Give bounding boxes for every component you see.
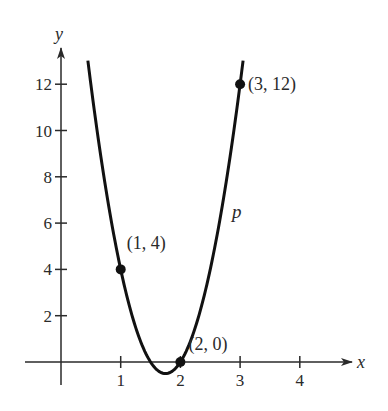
x-tick-label: 2 — [176, 371, 185, 390]
x-ticks: 1234 — [116, 356, 304, 390]
chart: 1234 24681012 x y (1, 4)(2, 0)(3, 12) p — [0, 0, 388, 411]
point-label: (3, 12) — [248, 74, 296, 95]
data-point — [116, 264, 126, 274]
curve-label-p: p — [230, 201, 242, 222]
point-label: (2, 0) — [188, 334, 227, 355]
data-points: (1, 4)(2, 0)(3, 12) — [116, 74, 296, 367]
y-tick-label: 2 — [44, 307, 53, 326]
x-tick-label: 1 — [116, 371, 125, 390]
y-tick-label: 10 — [35, 122, 52, 141]
y-axis-label: y — [53, 24, 63, 44]
y-tick-label: 4 — [44, 260, 53, 279]
data-point — [235, 79, 245, 89]
y-tick-label: 8 — [44, 168, 53, 187]
x-axis-label: x — [356, 352, 365, 372]
y-ticks: 24681012 — [35, 75, 67, 326]
point-label: (1, 4) — [127, 233, 166, 254]
x-tick-label: 4 — [296, 371, 305, 390]
x-tick-label: 3 — [236, 371, 245, 390]
data-point — [175, 357, 185, 367]
y-tick-label: 12 — [35, 75, 52, 94]
curve-p — [88, 61, 243, 374]
y-tick-label: 6 — [44, 214, 53, 233]
